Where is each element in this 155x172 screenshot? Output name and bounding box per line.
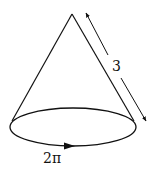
cone-base-ellipse	[10, 108, 136, 146]
slant-height-arrow-lower	[121, 78, 146, 121]
cone-right-edge	[72, 14, 134, 121]
cone-diagram: 3 2π	[0, 0, 155, 172]
base-circumference-label: 2π	[43, 150, 61, 166]
base-direction-arrow-icon	[64, 143, 75, 150]
slant-height-label: 3	[112, 58, 121, 74]
cone-left-edge	[12, 14, 72, 121]
slant-height-arrow-upper	[86, 13, 108, 55]
